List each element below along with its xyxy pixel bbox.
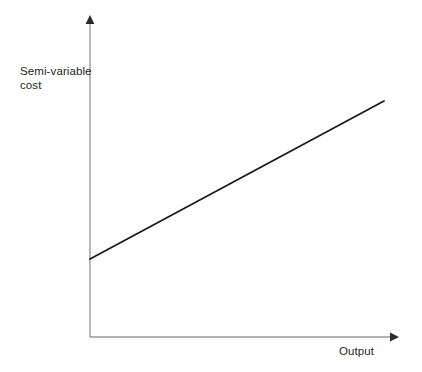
semi-variable-cost-chart: Semi-variablecost Output — [0, 0, 422, 372]
data-line-semi-variable-cost — [90, 101, 384, 259]
y-axis-label: Semi-variablecost — [20, 64, 92, 92]
chart-plot-area — [0, 0, 422, 372]
y-axis-label-line1: Semi-variable — [20, 65, 92, 77]
x-axis-label: Output — [339, 344, 374, 358]
x-axis-arrow-icon — [390, 333, 399, 342]
y-axis-label-line2: cost — [20, 78, 92, 92]
y-axis-arrow-icon — [86, 15, 95, 24]
